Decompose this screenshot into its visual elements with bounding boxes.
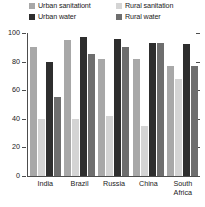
legend-item-urban-sanitation: Urban sanitationt <box>29 2 91 10</box>
bar <box>149 43 156 176</box>
x-axis-label: South Africa <box>166 179 200 197</box>
bar <box>80 37 87 176</box>
bar <box>98 59 105 176</box>
bar <box>64 40 71 176</box>
y-axis-tick <box>22 176 26 177</box>
bar <box>114 39 121 176</box>
legend-item-rural-sanitation: Rural sanitation <box>116 2 173 10</box>
bar-group <box>166 33 200 176</box>
bar <box>106 116 113 176</box>
x-axis-label: India <box>28 179 62 188</box>
bar-group <box>97 33 131 176</box>
x-axis-label: Brazil <box>62 179 96 188</box>
bar <box>157 43 164 176</box>
legend-label-rural-sanitation: Rural sanitation <box>125 2 173 10</box>
chart-legend: Urban sanitationt Urban water Rural sani… <box>0 2 205 26</box>
bar <box>183 44 190 176</box>
legend-label-urban-water: Urban water <box>38 13 76 21</box>
y-axis-label: 20 <box>0 143 20 151</box>
bar <box>122 47 129 176</box>
y-axis-label: 100 <box>0 29 20 37</box>
legend-swatch-rural-sanitation <box>116 3 122 9</box>
x-axis-line <box>27 176 200 177</box>
bar <box>167 66 174 176</box>
bar-group <box>62 33 96 176</box>
bar <box>88 54 95 176</box>
bar <box>38 119 45 176</box>
bar-group <box>131 33 165 176</box>
x-axis-label: China <box>131 179 165 188</box>
y-axis-label: 40 <box>0 115 20 123</box>
y-axis-tick <box>22 33 26 34</box>
y-axis-tick <box>22 147 26 148</box>
bar-groups <box>28 33 200 176</box>
bar <box>175 79 182 176</box>
x-axis-labels: IndiaBrazilRussiaChinaSouth Africa <box>28 179 200 205</box>
legend-swatch-urban-sanitation <box>29 3 35 9</box>
bar <box>46 62 53 176</box>
bar <box>72 119 79 176</box>
bar <box>54 97 61 176</box>
y-axis-tick <box>22 62 26 63</box>
legend-label-urban-sanitation: Urban sanitationt <box>38 2 91 10</box>
legend-swatch-urban-water <box>29 14 35 20</box>
bar <box>191 66 198 176</box>
bar <box>141 126 148 176</box>
bar <box>30 47 37 176</box>
bar-group <box>28 33 62 176</box>
bar <box>133 59 140 176</box>
y-axis-labels: 100806040200 <box>0 33 20 177</box>
y-axis-tick <box>22 119 26 120</box>
y-axis-label: 60 <box>0 86 20 94</box>
legend-swatch-rural-water <box>116 14 122 20</box>
legend-item-rural-water: Rural water <box>116 13 161 21</box>
y-axis-label: 80 <box>0 58 20 66</box>
y-axis-tick <box>22 90 26 91</box>
legend-label-rural-water: Rural water <box>125 13 161 21</box>
x-axis-label: Russia <box>97 179 131 188</box>
legend-item-urban-water: Urban water <box>29 13 76 21</box>
y-axis-label: 0 <box>0 172 20 180</box>
bar-chart: Urban sanitationt Urban water Rural sani… <box>0 0 205 207</box>
